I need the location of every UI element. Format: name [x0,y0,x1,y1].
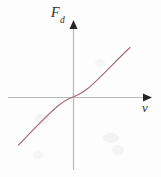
smudge [103,133,119,143]
y-axis-label: Fd [51,6,64,23]
y-axis-arrow-icon [70,20,78,29]
smudge [112,145,124,155]
y-axis-label-main: F [51,5,60,20]
smudge [95,59,105,67]
drag-force-curve [19,48,131,146]
x-axis-label: v [142,101,148,114]
figure-canvas: Fd v [0,0,161,177]
smudge [33,151,43,159]
plot-svg [0,0,161,177]
scan-smudges [33,59,124,159]
y-axis-label-subscript: d [60,15,65,25]
